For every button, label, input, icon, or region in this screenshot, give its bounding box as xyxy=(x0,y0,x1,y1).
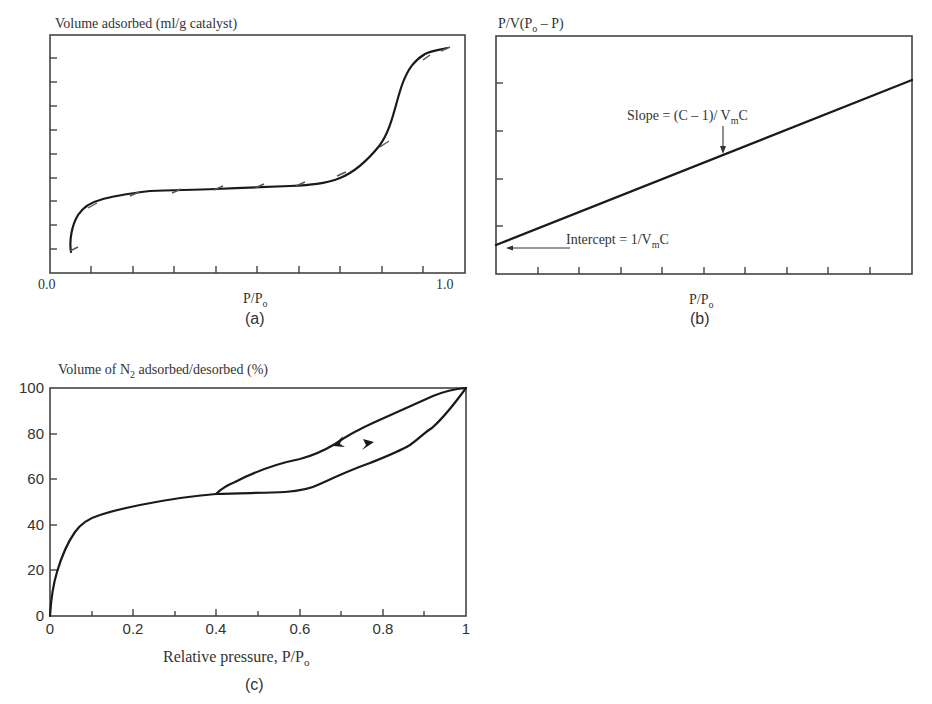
panel-b-bet-line xyxy=(496,80,912,245)
panel-a-xticks xyxy=(91,266,423,273)
panel-c-adsorption-arrow-icon xyxy=(362,439,374,450)
panel-a-isotherm-curve xyxy=(70,48,447,252)
svg-text:0.4: 0.4 xyxy=(206,620,227,637)
panel-b-ylabel: P/V(Po – P) xyxy=(498,16,564,34)
panel-c-caption: (c) xyxy=(245,676,264,693)
svg-text:0: 0 xyxy=(36,607,44,624)
panel-b-xlabel: P/Po xyxy=(689,292,713,310)
panel-c-ytick-labels: 0 20 40 60 80 100 xyxy=(19,379,44,624)
panel-b-yticks xyxy=(496,83,503,226)
svg-text:0.2: 0.2 xyxy=(123,620,144,637)
panel-a-caption: (a) xyxy=(245,310,265,327)
panel-a-yticks xyxy=(50,58,57,249)
panel-c-yticks xyxy=(50,434,57,570)
panel-a-xtick-1: 1.0 xyxy=(436,277,454,292)
panel-b-intercept-label: Intercept = 1/VmC xyxy=(566,232,669,250)
panel-a-data-markers xyxy=(70,47,450,251)
panel-b-caption: (b) xyxy=(690,310,710,327)
panel-b-slope-label: Slope = (C – 1)/ VmC xyxy=(627,108,748,126)
panel-b-intercept-arrowhead-icon xyxy=(506,246,513,251)
panel-a-frame xyxy=(50,35,465,273)
panel-a-ylabel: Volume adsorbed (ml/g catalyst) xyxy=(55,16,237,32)
panel-c-ylabel: Volume of N2 adsorbed/desorbed (%) xyxy=(58,362,268,380)
panel-a: Volume adsorbed (ml/g catalyst) 0.0 1.0 xyxy=(38,16,465,327)
svg-text:100: 100 xyxy=(19,379,44,396)
figure: Volume adsorbed (ml/g catalyst) 0.0 1.0 xyxy=(0,0,932,704)
svg-text:60: 60 xyxy=(27,470,44,487)
svg-text:20: 20 xyxy=(27,561,44,578)
panel-b-frame xyxy=(496,36,912,274)
panel-b: P/V(Po – P) Slope = (C – 1)/ VmC Interce… xyxy=(496,16,912,327)
panel-c-frame xyxy=(50,388,466,616)
panel-c-xtick-labels: 0 0.2 0.4 0.6 0.8 1 xyxy=(46,620,470,637)
svg-text:0: 0 xyxy=(46,620,54,637)
panel-c-adsorption-curve xyxy=(50,388,466,616)
panel-c-xlabel: Relative pressure, P/Po xyxy=(163,648,310,668)
panel-a-xtick-0: 0.0 xyxy=(38,277,56,292)
panel-b-slope-arrowhead-icon xyxy=(720,146,726,154)
svg-text:0.6: 0.6 xyxy=(290,620,311,637)
panel-b-xticks xyxy=(538,267,870,274)
svg-text:80: 80 xyxy=(27,425,44,442)
svg-text:40: 40 xyxy=(27,516,44,533)
svg-text:1: 1 xyxy=(462,620,470,637)
panel-a-xlabel: P/Po xyxy=(243,291,267,309)
svg-text:0.8: 0.8 xyxy=(373,620,394,637)
panel-c-xticks xyxy=(92,609,424,616)
panel-c: Volume of N2 adsorbed/desorbed (%) 0 20 … xyxy=(19,362,470,693)
